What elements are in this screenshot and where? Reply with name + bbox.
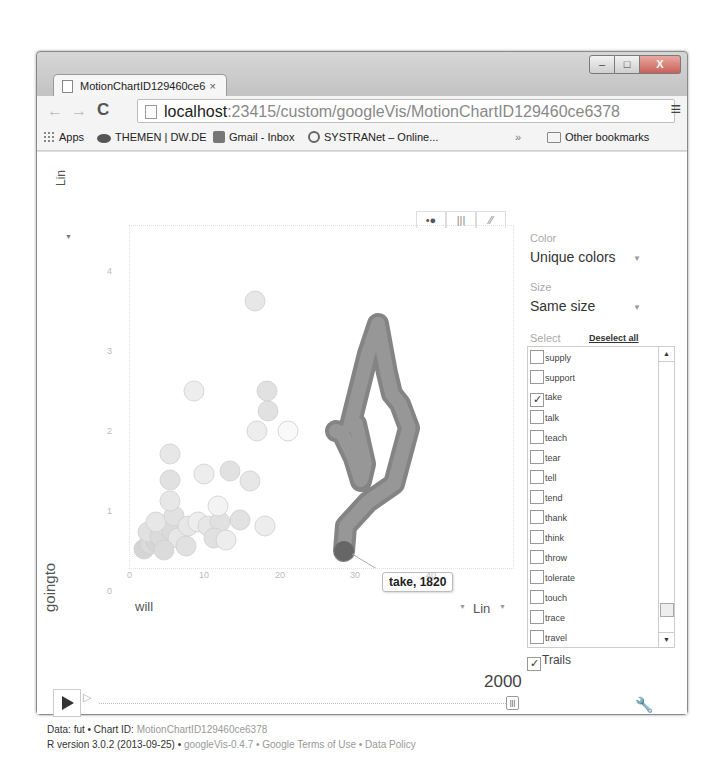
color-label: Color: [530, 232, 556, 244]
dw-logo-icon: [97, 134, 111, 143]
x-scale-dropdown-icon[interactable]: ▼: [499, 603, 506, 610]
window-controls: – □ X: [589, 55, 681, 74]
address-bar[interactable]: localhost:23415/custom/googleVis/MotionC…: [137, 99, 675, 123]
forward-button[interactable]: →: [71, 102, 87, 120]
checkbox[interactable]: [530, 530, 544, 544]
close-window-button[interactable]: X: [640, 55, 681, 74]
footer-data-line: Data: fut • Chart ID: MotionChartID12946…: [47, 724, 267, 735]
settings-wrench-icon[interactable]: 🔧: [635, 696, 654, 714]
checkbox-checked[interactable]: ✓: [530, 393, 544, 407]
play-button[interactable]: [53, 689, 81, 717]
list-item[interactable]: travel: [530, 630, 567, 650]
bookmark-apps[interactable]: Apps: [43, 131, 84, 143]
bookmark-dw[interactable]: THEMEN | DW.DE: [97, 131, 206, 143]
reload-button[interactable]: C: [97, 100, 109, 120]
list-item[interactable]: tell: [530, 470, 557, 490]
checkbox[interactable]: [530, 490, 544, 504]
bookmark-gmail[interactable]: Gmail - Inbox: [213, 131, 294, 143]
list-item[interactable]: think: [530, 530, 564, 550]
browser-window: – □ X MotionChartID129460ce6 × ← → C loc…: [36, 51, 688, 715]
bookmarks-overflow[interactable]: »: [515, 131, 521, 143]
y-tick: 1: [107, 506, 112, 516]
list-item[interactable]: talk: [530, 410, 559, 430]
y-scale-selector[interactable]: Lin: [54, 170, 68, 186]
browser-tab[interactable]: MotionChartID129460ce6 ×: [53, 74, 227, 96]
x-axis-dropdown-icon[interactable]: ▼: [459, 603, 466, 610]
bubble-tooltip: take, 1820: [382, 572, 453, 592]
checkbox[interactable]: [530, 470, 544, 484]
scroll-down-icon[interactable]: ▼: [659, 632, 674, 647]
series-select-list: supply support ✓take talk teach tear tel…: [527, 346, 675, 648]
chrome-menu-icon[interactable]: ≡: [670, 99, 681, 120]
googlevis-link[interactable]: googleVis-0.4.7: [184, 739, 253, 750]
url-host: localhost: [164, 103, 227, 120]
footer-version-line: R version 3.0.2 (2013-09-25) • googleVis…: [47, 739, 416, 750]
trails-checkbox[interactable]: ✓: [527, 657, 541, 671]
list-item[interactable]: supply: [530, 350, 571, 370]
systran-icon: [308, 131, 320, 143]
x-tick: 40: [426, 570, 436, 580]
take-trail: [334, 324, 409, 568]
list-item[interactable]: support: [530, 370, 575, 390]
other-bookmarks[interactable]: Other bookmarks: [547, 131, 649, 143]
gmail-icon: [213, 131, 225, 143]
checkbox[interactable]: [530, 550, 544, 564]
checkbox[interactable]: [530, 510, 544, 524]
y-tick: 3: [107, 346, 112, 356]
select-label: Select: [530, 332, 561, 344]
list-item[interactable]: ✓take: [530, 390, 562, 410]
tab-close-icon[interactable]: ×: [210, 75, 216, 97]
list-item[interactable]: tolerate: [530, 570, 575, 590]
list-item[interactable]: tend: [530, 490, 563, 510]
checkbox[interactable]: [530, 350, 544, 364]
bookmark-systranet[interactable]: SYSTRANet – Online...: [308, 131, 438, 143]
page-icon: [62, 80, 73, 93]
list-item[interactable]: thank: [530, 510, 567, 530]
color-selector[interactable]: Unique colors: [530, 249, 616, 265]
list-item[interactable]: tear: [530, 450, 561, 470]
checkbox[interactable]: [530, 610, 544, 624]
x-axis-label[interactable]: will: [135, 599, 153, 614]
y-tick: 4: [107, 266, 112, 276]
y-axis-dropdown-icon[interactable]: ▼: [65, 233, 72, 240]
current-year: 2000: [484, 672, 522, 692]
trails-toggle[interactable]: ✓Trails: [527, 653, 571, 671]
x-scale-selector[interactable]: Lin: [473, 601, 490, 616]
list-item[interactable]: trace: [530, 610, 565, 630]
tab-title: MotionChartID129460ce6: [80, 80, 205, 92]
checkbox[interactable]: [530, 590, 544, 604]
scroll-thumb[interactable]: [660, 603, 674, 617]
size-selector[interactable]: Same size: [530, 298, 595, 314]
plot-area[interactable]: [129, 225, 514, 569]
x-tick: 10: [199, 570, 209, 580]
browser-toolbar: ← → C localhost:23415/custom/googleVis/M…: [37, 96, 687, 126]
checkbox[interactable]: [530, 450, 544, 464]
y-tick: 2: [107, 426, 112, 436]
color-dropdown-icon[interactable]: ▼: [633, 254, 641, 263]
checkbox[interactable]: [530, 430, 544, 444]
folder-icon: [547, 132, 561, 143]
x-tick: 20: [275, 570, 285, 580]
checkbox[interactable]: [530, 570, 544, 584]
y-tick: 0: [107, 586, 112, 596]
time-slider-thumb[interactable]: |||: [506, 696, 519, 710]
minimize-button[interactable]: –: [589, 55, 615, 74]
playback-speed-icon[interactable]: ▷: [83, 691, 91, 704]
list-item[interactable]: teach: [530, 430, 567, 450]
maximize-button[interactable]: □: [615, 55, 640, 74]
scroll-up-icon[interactable]: ▲: [659, 347, 674, 362]
list-item[interactable]: touch: [530, 590, 567, 610]
list-scrollbar[interactable]: ▲ ▼: [658, 347, 674, 647]
deselect-all-link[interactable]: Deselect all: [589, 333, 639, 343]
back-button[interactable]: ←: [47, 102, 63, 120]
size-dropdown-icon[interactable]: ▼: [633, 303, 641, 312]
checkbox[interactable]: [530, 410, 544, 424]
list-item[interactable]: throw: [530, 550, 567, 570]
checkbox[interactable]: [530, 630, 544, 644]
x-tick: 0: [127, 570, 132, 580]
time-slider[interactable]: [99, 703, 510, 704]
y-axis-label[interactable]: goingto: [41, 563, 58, 612]
terms-link[interactable]: Google Terms of Use: [262, 739, 356, 750]
data-policy-link[interactable]: Data Policy: [365, 739, 416, 750]
checkbox[interactable]: [530, 370, 544, 384]
